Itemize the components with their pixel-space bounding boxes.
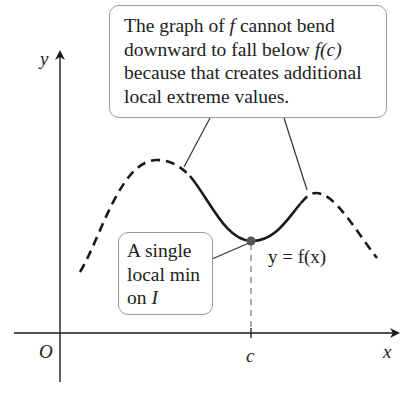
local-min-point [247, 237, 256, 246]
italic-fc: f(c) [315, 39, 342, 60]
callout-line: on I [127, 286, 206, 310]
c-label: c [246, 345, 254, 367]
callout-line: The graph of f cannot bend [124, 14, 376, 38]
pointer-line-right [284, 118, 307, 190]
callout-line: A single [127, 239, 206, 263]
curve-label: y = f(x) [268, 246, 326, 268]
callout-single-local-min: A single local min on I [118, 232, 213, 315]
pointer-line-min [212, 243, 249, 259]
x-axis-label: x [383, 341, 391, 363]
curve-solid-interval [190, 176, 301, 241]
callout-line: local min [127, 263, 206, 287]
pointer-line-left [184, 118, 210, 167]
callout-cannot-bend: The graph of f cannot bend downward to f… [109, 5, 387, 118]
text: on [127, 287, 151, 308]
text: The graph of [124, 15, 230, 36]
y-axis-label: y [40, 48, 48, 70]
callout-line: local extreme values. [124, 85, 376, 109]
origin-label: O [39, 341, 53, 363]
italic-I: I [151, 287, 158, 308]
callout-line: because that creates additional [124, 61, 376, 85]
text: cannot bend [235, 15, 335, 36]
callout-line: downward to fall below f(c) [124, 38, 376, 62]
text: downward to fall below [124, 39, 315, 60]
